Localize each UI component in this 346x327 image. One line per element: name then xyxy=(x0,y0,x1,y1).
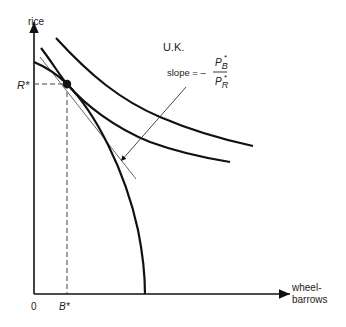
r-star-label: R* xyxy=(17,79,30,91)
origin-label: 0 xyxy=(31,301,37,312)
x-axis-label-line2: barrows xyxy=(292,294,328,305)
slope-denominator-star: * xyxy=(224,73,227,82)
production-possibility-frontier xyxy=(34,62,145,294)
b-star-label: B* xyxy=(59,301,71,312)
x-axis-label-line1: wheel- xyxy=(291,282,321,293)
slope-numerator-star: * xyxy=(224,53,227,62)
slope-text: slope = – xyxy=(167,67,207,78)
country-label: U.K. xyxy=(163,41,184,53)
y-axis-label: rice xyxy=(28,16,45,27)
equilibrium-point xyxy=(63,80,71,88)
trade-diagram: rice R* 0 B* wheel- barrows U.K. slope =… xyxy=(0,0,346,327)
